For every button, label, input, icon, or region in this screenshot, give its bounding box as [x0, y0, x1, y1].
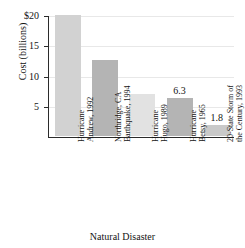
- x-category-label-3-line2: Betsy, 1965: [198, 104, 207, 142]
- x-axis-title: Natural Disaster: [0, 231, 245, 242]
- x-category-label-1: Northridge, CA Earthquake, 1994: [114, 86, 132, 142]
- x-category-label-0-line1: Hurricane: [77, 97, 86, 142]
- y-tick-5: 5: [44, 107, 48, 108]
- x-category-label-4-line2: the Century, 1993: [235, 85, 244, 142]
- y-tick-20: $20: [44, 16, 48, 17]
- y-tick-label-20: $20: [24, 11, 39, 21]
- bar-value-label-3: 6.3: [173, 85, 186, 96]
- x-category-label-2-line2: Hugo, 1989: [160, 104, 169, 142]
- y-tick-label-15: 15: [29, 41, 39, 51]
- x-category-label-4: 20-State Storm of the Century, 1993: [226, 85, 244, 142]
- x-category-label-4-line1: 20-State Storm of: [226, 85, 235, 142]
- x-category-label-1-line1: Northridge, CA: [114, 86, 123, 142]
- x-category-label-3: Hurricane Betsy, 1965: [189, 104, 207, 142]
- x-category-label-0-line2: Andrew, 1992: [86, 97, 95, 142]
- y-tick-10: 10: [44, 77, 48, 78]
- y-tick-label-5: 5: [34, 102, 39, 112]
- bar-chart-figure: Cost (billions) $20 15 10 5: [0, 0, 245, 248]
- y-tick-label-10: 10: [29, 72, 39, 82]
- y-tick-15: 15: [44, 46, 48, 47]
- x-category-label-2: Hurricane Hugo, 1989: [151, 104, 169, 142]
- bar-value-label-4: 1.8: [211, 112, 224, 123]
- x-category-label-1-line2: Earthquake, 1994: [123, 86, 132, 142]
- x-category-label-0: Hurricane Andrew, 1992: [77, 97, 95, 142]
- x-category-label-3-line1: Hurricane: [189, 104, 198, 142]
